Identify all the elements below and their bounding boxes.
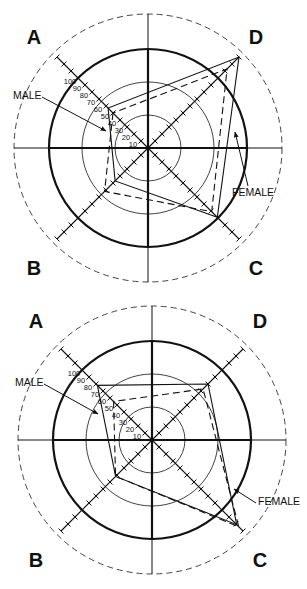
female-annotation-label: FEMALE: [258, 495, 300, 507]
center-point: [150, 438, 154, 442]
female-arrow-icon: [234, 489, 256, 503]
male-annotation-label: MALE: [13, 89, 42, 101]
quadrant-label-d: D: [253, 310, 267, 332]
tick-label: 100: [68, 369, 81, 378]
series-female-polygon: [114, 389, 239, 527]
radar-charts-svg: 102030405060708090100ABCDMALEFEMALE 1020…: [0, 0, 307, 589]
quadrant-label-c: C: [253, 549, 267, 571]
quadrant-label-a: A: [27, 26, 41, 48]
male-annotation-label: MALE: [15, 376, 44, 388]
radar-chart-top: 102030405060708090100ABCDMALEFEMALE: [13, 14, 282, 282]
radar-figure: 102030405060708090100ABCDMALEFEMALE 1020…: [0, 0, 307, 589]
quadrant-label-b: B: [27, 257, 41, 279]
quadrant-label-b: B: [29, 549, 43, 571]
radar-chart-bottom: 102030405060708090100ABCDMALEFEMALE: [15, 306, 300, 574]
center-point: [146, 146, 150, 150]
quadrant-label-d: D: [249, 26, 263, 48]
quadrant-label-c: C: [249, 257, 263, 279]
tick-label: 100: [64, 77, 77, 86]
quadrant-label-a: A: [29, 310, 43, 332]
female-annotation-label: FEMALE: [232, 186, 274, 198]
